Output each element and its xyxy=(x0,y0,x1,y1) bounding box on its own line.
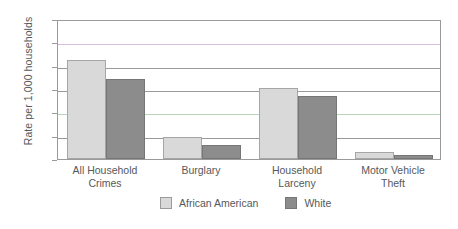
y-tick-mark xyxy=(52,160,57,161)
y-tick-mark xyxy=(52,113,57,114)
legend-entry-white: White xyxy=(285,197,331,209)
x-axis-label: Burglary xyxy=(146,164,256,177)
x-axis-label-line1: All Household xyxy=(73,164,138,176)
x-axis-label-line2: Crimes xyxy=(50,177,160,190)
y-tick-mark xyxy=(52,20,57,21)
legend: African American White xyxy=(160,197,331,209)
bar xyxy=(298,96,337,159)
legend-label: African American xyxy=(179,197,258,209)
legend-label: White xyxy=(304,197,331,209)
bar xyxy=(394,155,433,159)
plot-area xyxy=(57,20,441,160)
y-tick-mark xyxy=(52,90,57,91)
bar xyxy=(106,79,145,159)
bar xyxy=(259,88,298,159)
x-axis-label: HouseholdLarceny xyxy=(242,164,352,189)
y-tick-mark xyxy=(52,43,57,44)
x-axis-label-line2: Larceny xyxy=(242,177,352,190)
bar xyxy=(355,152,394,159)
bar xyxy=(163,137,202,159)
legend-swatch-icon xyxy=(160,197,172,209)
legend-entry-african-american: African American xyxy=(160,197,258,209)
legend-swatch-icon xyxy=(285,197,297,209)
x-axis-label: Motor VehicleTheft xyxy=(338,164,448,189)
y-tick-mark xyxy=(52,137,57,138)
gridline xyxy=(58,44,440,45)
bar-chart: Rate per 1,000 households 05010015020025… xyxy=(0,0,458,229)
x-axis-label-line2: Theft xyxy=(338,177,448,190)
x-axis-label: All HouseholdCrimes xyxy=(50,164,160,189)
x-axis-label-line1: Burglary xyxy=(181,164,220,176)
y-tick-mark xyxy=(52,67,57,68)
bar xyxy=(67,60,106,159)
bar xyxy=(202,145,241,159)
x-axis-label-line1: Household xyxy=(272,164,322,176)
x-axis-label-line1: Motor Vehicle xyxy=(361,164,425,176)
gridline xyxy=(58,68,440,69)
y-axis-title: Rate per 1,000 households xyxy=(22,0,34,166)
